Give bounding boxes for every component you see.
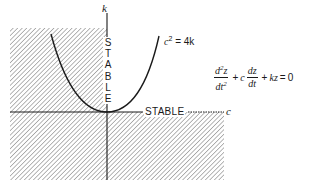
second-derivative-term: d2z dt2 [214,62,228,94]
stable-letter: L [103,82,113,93]
k-axis-label: k [102,2,107,14]
curve-rhs: = 4k [172,36,194,47]
unstable-region-left [10,28,107,180]
rhs-zero: 0 [288,72,294,83]
first-derivative-term: dz dt [247,65,258,90]
stable-vertical-label: S T A B L E [103,37,113,104]
stable-letter: A [103,59,113,70]
eq-dt: dt [248,78,256,90]
eq-dz: dz [247,65,258,78]
curve-equation-label: c2 = 4k [164,35,194,47]
stable-horizontal-label: STABLE [144,106,185,117]
stable-letter: B [103,71,113,82]
unstable-region-bottom [107,112,224,180]
coefficient-c: c [240,72,244,83]
plus-sign: + [262,72,268,83]
eq-exp: 2 [223,80,227,88]
stable-letter: S [103,37,113,48]
stability-diagram [0,0,313,190]
differential-equation: d2z dt2 + c dz dt + kz = 0 [212,62,293,94]
stable-letter: E [103,93,113,104]
plus-sign: + [232,72,238,83]
kz-term: kz [269,72,277,83]
c-axis-label: c [226,105,231,117]
equals-sign: = [280,72,286,83]
stable-letter: T [103,48,113,59]
eq-z: z [224,65,228,76]
